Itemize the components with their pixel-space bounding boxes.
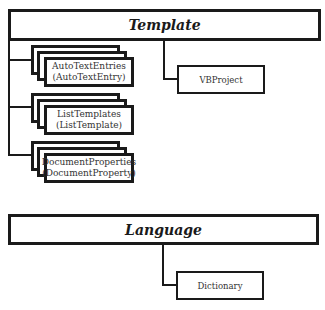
collection-item: (DocumentProperty) [42, 168, 136, 179]
connector-listtemplates [8, 106, 32, 108]
template-title: Template [128, 17, 200, 33]
dictionary-box: Dictionary [176, 271, 264, 300]
template-object-box: Template [8, 9, 321, 41]
collection-name: ListTemplates [57, 109, 121, 120]
connector-docprops [8, 154, 32, 156]
vbproject-label: VBProject [199, 75, 242, 85]
vbproject-box: VBProject [177, 65, 265, 94]
vbproject-connector-vertical [163, 40, 165, 80]
connector-autotext [8, 59, 32, 61]
collection-name: DocumentProperties [42, 157, 136, 168]
language-object-box: Language [8, 214, 319, 245]
stack-card-front: DocumentProperties (DocumentProperty) [44, 153, 134, 183]
collection-item: (AutoTextEntry) [52, 72, 125, 83]
dictionary-connector-horizontal [162, 284, 177, 286]
dictionary-label: Dictionary [198, 281, 243, 291]
language-title: Language [125, 222, 202, 238]
collection-name: AutoTextEntries [52, 61, 126, 72]
dictionary-connector-vertical [162, 244, 164, 286]
stack-card-front: ListTemplates (ListTemplate) [44, 105, 134, 135]
collection-item: (ListTemplate) [56, 120, 122, 131]
stack-card-front: AutoTextEntries (AutoTextEntry) [44, 57, 134, 87]
vbproject-connector-horizontal [163, 78, 178, 80]
template-trunk-line [8, 40, 10, 155]
